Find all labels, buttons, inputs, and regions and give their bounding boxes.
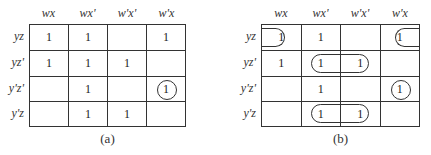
group-pair-b-r3 — [311, 104, 369, 123]
cell: 1 — [301, 77, 341, 102]
cell — [147, 102, 186, 127]
row-header-y-prime-z: y'z — [0, 106, 24, 121]
cell — [341, 25, 381, 51]
cell — [108, 77, 147, 102]
group-pair-b-r1 — [311, 54, 369, 73]
row-header-y-prime-z-prime: y'z' — [0, 81, 24, 96]
cell — [30, 77, 69, 102]
group-wrap-b-r0c0 — [261, 28, 285, 47]
cell: 1 — [108, 102, 147, 127]
group-wrap-b-r0c3 — [395, 28, 420, 47]
cell — [262, 102, 302, 127]
cell: 1 — [301, 25, 341, 51]
row-header-yz-prime: yz' — [0, 55, 24, 70]
row-header-y-prime-z-prime: y'z' — [228, 81, 256, 96]
cell: 1 — [69, 77, 108, 102]
row-header-yz: yz — [228, 29, 256, 44]
row-header-yz-prime: yz' — [228, 55, 256, 70]
group-circle-a-r2c3 — [157, 80, 177, 100]
caption-b: (b) — [261, 131, 420, 147]
row-header-yz: yz — [0, 29, 24, 44]
cell — [147, 51, 186, 77]
cell: 1 — [147, 25, 186, 51]
col-header-w-prime-x-prime: w'x' — [340, 6, 380, 21]
col-header-wx-prime: wx' — [301, 6, 340, 21]
cell: 1 — [30, 51, 69, 77]
cell — [341, 77, 381, 102]
cell: 1 — [69, 25, 108, 51]
col-header-w-prime-x-prime: w'x' — [107, 6, 147, 21]
col-header-w-prime-x: w'x — [380, 6, 420, 21]
cell: 1 — [30, 25, 69, 51]
cell: 1 — [108, 51, 147, 77]
group-circle-b-r2c3 — [391, 80, 411, 100]
kmap-a-grid: 1 1 1 1 1 1 1 1 1 1 — [29, 24, 186, 127]
caption-a: (a) — [29, 131, 186, 147]
col-header-wx: wx — [261, 6, 301, 21]
cell — [108, 25, 147, 51]
col-header-wx: wx — [29, 6, 68, 21]
col-header-wx-prime: wx' — [68, 6, 107, 21]
cell: 1 — [69, 51, 108, 77]
cell: 1 — [262, 51, 302, 77]
col-header-w-prime-x: w'x — [147, 6, 186, 21]
cell — [30, 102, 69, 127]
cell — [262, 77, 302, 102]
cell — [380, 51, 420, 77]
row-header-y-prime-z: y'z — [228, 106, 256, 121]
cell — [380, 102, 420, 127]
cell: 1 — [69, 102, 108, 127]
